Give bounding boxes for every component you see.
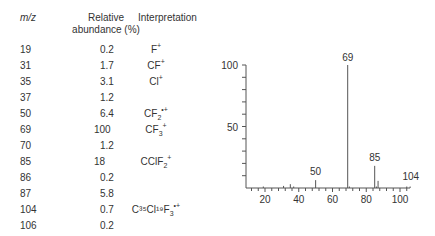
peak-label: 69 xyxy=(342,52,354,63)
mass-spectrum-chart: 2040608010050100695085104 xyxy=(0,0,435,236)
x-tick-label: 80 xyxy=(361,194,373,205)
y-tick-label: 100 xyxy=(221,60,238,71)
x-tick-label: 40 xyxy=(293,194,305,205)
peak-label: 104 xyxy=(402,171,419,182)
x-tick-label: 20 xyxy=(259,194,271,205)
x-tick-label: 60 xyxy=(327,194,339,205)
x-tick-label: 100 xyxy=(392,194,409,205)
y-tick-label: 50 xyxy=(227,122,239,133)
peak-label: 50 xyxy=(310,166,322,177)
peak-label: 85 xyxy=(369,152,381,163)
